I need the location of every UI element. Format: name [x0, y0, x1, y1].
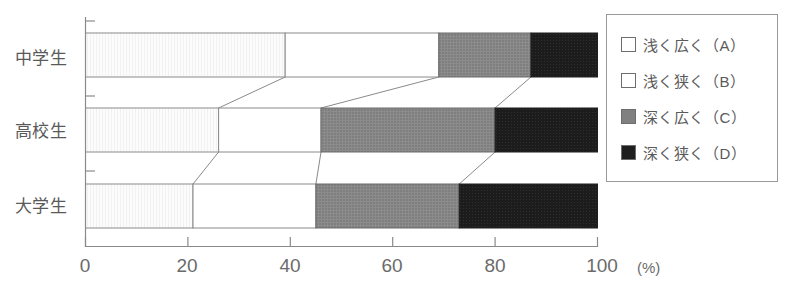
- x-axis-unit-label: (%): [637, 259, 660, 276]
- legend-item-c: 深く広く（C）: [621, 98, 777, 134]
- legend-item-b: 浅く狭く（B）: [621, 62, 777, 98]
- bar-segment: [439, 33, 531, 77]
- connector-line: [495, 77, 531, 108]
- bar-segment: [86, 108, 219, 152]
- legend-label-a: 浅く広く（A）: [643, 34, 745, 55]
- bar-segment: [459, 184, 597, 228]
- connector-line: [193, 152, 219, 184]
- legend-swatch-c-icon: [621, 109, 636, 124]
- bar-segment: [316, 184, 459, 228]
- category-label-daigakusei: 大学生: [2, 192, 80, 217]
- category-label-chugakusei: 中学生: [2, 44, 80, 69]
- bar-segment: [285, 33, 439, 77]
- bar-segment: [193, 184, 316, 228]
- x-tick-label-20: 20: [176, 255, 197, 277]
- chart-screenshot: 中学生 高校生 大学生 0 20 40 60 80 100 (%) 浅く広く（A…: [0, 0, 791, 299]
- connector-line: [219, 77, 286, 108]
- x-tick-label-80: 80: [484, 255, 505, 277]
- legend-swatch-a-icon: [621, 37, 636, 52]
- chart-legend: 浅く広く（A） 浅く狭く（B） 深く広く（C） 深く狭く（D）: [606, 14, 778, 182]
- connector-line: [321, 77, 439, 108]
- x-tick-label-40: 40: [279, 255, 300, 277]
- category-axis-labels: 中学生 高校生 大学生: [0, 0, 80, 299]
- legend-swatch-b-icon: [621, 73, 636, 88]
- legend-label-b: 浅く狭く（B）: [643, 70, 745, 91]
- connector-line: [316, 152, 321, 184]
- bar-segment: [531, 33, 598, 77]
- bar-segment: [495, 108, 597, 152]
- x-axis-ticks: [86, 237, 598, 247]
- plot-area: 中学生 高校生 大学生 0 20 40 60 80 100 (%) 浅く広く（A…: [0, 0, 791, 299]
- legend-label-c: 深く広く（C）: [643, 106, 746, 127]
- bar-segment: [321, 108, 495, 152]
- x-tick-label-100: 100: [586, 255, 618, 277]
- legend-swatch-d-icon: [621, 145, 636, 160]
- legend-item-a: 浅く広く（A）: [621, 26, 777, 62]
- x-tick-label-0: 0: [80, 255, 91, 277]
- category-label-koukousei: 高校生: [2, 117, 80, 142]
- bar-segment: [219, 108, 321, 152]
- legend-item-d: 深く狭く（D）: [621, 134, 777, 170]
- connector-line: [459, 152, 495, 184]
- bar-group: [86, 33, 598, 228]
- legend-label-d: 深く狭く（D）: [643, 142, 746, 163]
- bar-segment: [86, 184, 194, 228]
- x-tick-label-60: 60: [381, 255, 402, 277]
- bar-segment: [86, 33, 286, 77]
